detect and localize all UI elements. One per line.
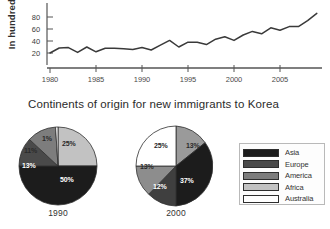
x-axis-svg — [46, 64, 324, 74]
legend-label-america: America — [285, 171, 312, 180]
line-series-svg — [46, 2, 324, 68]
legend-label-australia: Australia — [285, 194, 313, 203]
legend-swatch-asia — [243, 149, 279, 157]
legend-item-america[interactable]: America — [243, 170, 320, 181]
x-tick-label-1980: 1980 — [33, 75, 67, 84]
pie-chart-2000: 13% 37% 12% 13% 25% 2000 — [130, 125, 222, 211]
legend-swatch-america — [243, 172, 279, 180]
legend-item-australia[interactable]: Australia — [243, 193, 320, 204]
pie-2000-caption: 2000 — [130, 208, 222, 218]
pie-chart-1990: 25% 50% 13% 11% 1% 1990 — [12, 126, 104, 210]
immigrants-line-series — [50, 13, 317, 53]
pie-2000-slice-australia — [136, 126, 176, 166]
y-axis-title: In hundreds — [6, 0, 17, 55]
line-chart-panel: In hundreds 80 60 40 20 1980 1985 1990 1… — [0, 0, 330, 92]
y-tick-label-40: 40 — [24, 37, 40, 46]
y-tick-label-80: 80 — [24, 13, 40, 22]
y-tick-label-20: 20 — [24, 49, 40, 58]
x-tick-label-1995: 1995 — [171, 75, 205, 84]
legend-swatch-australia — [243, 195, 279, 203]
line-plot-area — [46, 2, 324, 68]
legend-label-europe: Europe — [285, 160, 309, 169]
legend-item-europe[interactable]: Europe — [243, 159, 320, 170]
y-tick-label-60: 60 — [24, 25, 40, 34]
legend-label-africa: Africa — [285, 183, 304, 192]
x-tick-label-2000: 2000 — [217, 75, 251, 84]
legend-label-asia: Asia — [285, 148, 299, 157]
legend-item-asia[interactable]: Asia — [243, 147, 320, 158]
pie-legend: Asia Europe America Africa Australia — [239, 143, 325, 205]
pie-1990-svg — [12, 126, 104, 206]
pie-1990-slice-asia — [19, 166, 97, 205]
pie-2000-svg — [130, 125, 222, 207]
legend-swatch-africa — [243, 183, 279, 191]
pie-1990-slice-africa — [58, 127, 97, 166]
x-tick-label-2005: 2005 — [263, 75, 297, 84]
pie-1990-caption: 1990 — [12, 208, 104, 218]
pie-section-title: Continents of origin for new immigrants … — [28, 98, 279, 110]
legend-swatch-europe — [243, 160, 279, 168]
x-tick-label-1990: 1990 — [125, 75, 159, 84]
x-tick-label-1985: 1985 — [79, 75, 113, 84]
legend-item-africa[interactable]: Africa — [243, 182, 320, 193]
